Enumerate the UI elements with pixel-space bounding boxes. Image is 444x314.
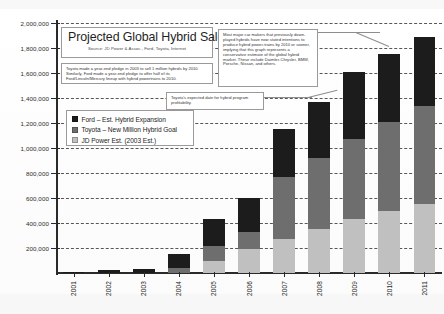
bar-segment[interactable] [273, 129, 295, 178]
y-axis-tick [51, 98, 60, 99]
y-axis-tick [51, 198, 60, 199]
x-axis-tick [179, 272, 180, 277]
x-axis-tick [144, 272, 145, 277]
bar-column-2009[interactable] [343, 72, 365, 273]
bar-column-2004[interactable] [168, 254, 190, 273]
scan-edge-top [0, 0, 444, 9]
bar-segment[interactable] [238, 198, 260, 232]
x-axis-tick [424, 272, 425, 277]
y-axis-tick [51, 23, 60, 24]
y-axis-tick-label: 200,000 [26, 245, 49, 252]
x-axis-tick [284, 272, 285, 277]
legend-item[interactable]: Toyota – New Million Hybrid Goal [72, 125, 188, 136]
x-axis-tick [249, 272, 250, 277]
x-axis-tick-label: 2010 [386, 281, 393, 296]
legend-swatch-icon [72, 116, 78, 122]
bar-segment[interactable] [343, 139, 365, 219]
chart-legend: Ford – Est. Hybrid ExpansionToyota – New… [66, 110, 194, 146]
x-axis-tick-label: 2005 [210, 281, 217, 296]
y-axis-tick [51, 148, 60, 149]
leader-line-mid [264, 97, 312, 98]
bar-segment[interactable] [203, 246, 225, 262]
bar-column-2008[interactable] [308, 102, 330, 273]
bar-column-2010[interactable] [378, 54, 400, 273]
bar-segment[interactable] [378, 54, 400, 122]
y-axis-tick-label: 400,000 [26, 220, 49, 227]
bar-segment[interactable] [414, 204, 436, 273]
x-axis-tick-label: 2001 [70, 281, 77, 296]
bar-segment[interactable] [308, 229, 330, 273]
x-axis-tick-label: 2011 [421, 281, 428, 296]
x-axis-tick-label: 2003 [140, 281, 147, 296]
bar-segment[interactable] [414, 37, 436, 106]
y-axis-tick [51, 123, 60, 124]
annotation-toyota-ford-pledge: Toyota made a year-end pledge in 2003 to… [61, 63, 213, 84]
bar-segment[interactable] [168, 254, 190, 268]
legend-swatch-icon [72, 127, 78, 133]
y-axis-tick [51, 223, 60, 224]
x-axis-tick-label: 2004 [175, 281, 182, 296]
annotation-market-conservative-estimate: Most major car makers that previously do… [218, 29, 318, 87]
bar-column-2007[interactable] [273, 129, 295, 273]
legend-item-label: Toyota – New Million Hybrid Goal [82, 126, 178, 133]
bar-column-2006[interactable] [238, 198, 260, 273]
x-axis-tick-label: 2006 [246, 281, 253, 296]
bar-segment[interactable] [343, 72, 365, 139]
x-axis-tick-label: 2009 [351, 281, 358, 296]
y-axis-tick [51, 73, 60, 74]
leader-line-right [318, 32, 380, 33]
x-axis-tick [389, 272, 390, 277]
scan-edge-bottom [0, 294, 444, 314]
bar-segment[interactable] [378, 211, 400, 274]
x-axis-tick-label: 2008 [316, 281, 323, 296]
y-axis-tick-label: 800,000 [26, 170, 49, 177]
legend-item-label: Ford – Est. Hybrid Expansion [82, 116, 166, 123]
bar-segment[interactable] [203, 219, 225, 246]
chart-title-box: Projected Global Hybrid Sales Source: JD… [61, 27, 213, 58]
y-axis-tick-label: 1,600,000 [21, 70, 49, 77]
legend-item[interactable]: JD Power Est. (2003 Est.) [72, 135, 188, 146]
bar-column-2011[interactable] [414, 37, 436, 273]
legend-swatch-icon [72, 137, 78, 143]
legend-item[interactable]: Ford – Est. Hybrid Expansion [72, 114, 188, 125]
bar-segment[interactable] [273, 239, 295, 273]
legend-item-label: JD Power Est. (2003 Est.) [82, 137, 157, 144]
bar-segment[interactable] [308, 158, 330, 229]
y-axis-tick [51, 173, 60, 174]
y-axis-tick-label: 1,000,000 [21, 145, 49, 152]
x-axis-tick [354, 272, 355, 277]
gridline [56, 23, 442, 24]
y-axis-tick-label: 1,400,000 [21, 95, 49, 102]
page-title: Projected Global Hybrid Sales [68, 31, 206, 44]
bar-segment[interactable] [273, 177, 295, 238]
x-axis-tick-label: 2002 [105, 281, 112, 296]
x-axis-tick-label: 2007 [281, 281, 288, 296]
bar-segment[interactable] [414, 106, 436, 204]
bar-segment[interactable] [378, 122, 400, 210]
x-axis-tick [109, 272, 110, 277]
y-axis-tick-label: 2,000,000 [21, 20, 49, 27]
x-axis-tick [319, 272, 320, 277]
chart-page: 200,000400,000600,000800,0001,000,0001,2… [0, 0, 444, 314]
y-axis-tick-label: 1,200,000 [21, 120, 49, 127]
y-axis-tick-label: 1,800,000 [21, 45, 49, 52]
bar-column-2005[interactable] [203, 219, 225, 273]
chart-source-caption: Source: JD Power & Assoc., Ford, Toyota,… [68, 46, 206, 51]
x-axis-tick [74, 272, 75, 277]
annotation-toyota-profitability-date: Toyota's expected date for hybrid progra… [166, 92, 264, 110]
y-axis-tick [51, 48, 60, 49]
x-axis-tick [214, 272, 215, 277]
y-axis-tick [51, 248, 60, 249]
y-axis-tick-label: 600,000 [26, 195, 49, 202]
bar-segment[interactable] [308, 102, 330, 158]
bar-segment[interactable] [238, 249, 260, 273]
bar-segment[interactable] [343, 219, 365, 273]
bar-segment[interactable] [238, 232, 260, 250]
